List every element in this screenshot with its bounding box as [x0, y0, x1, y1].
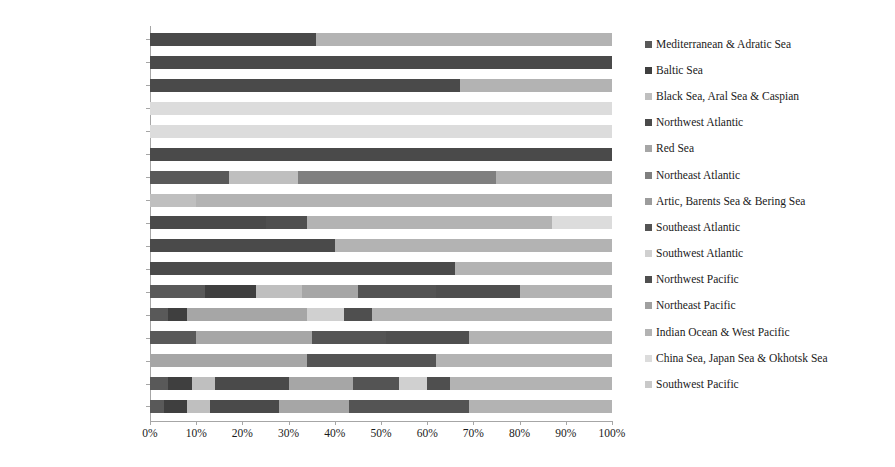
bar-segment[interactable]	[150, 102, 612, 115]
bar-segment[interactable]	[150, 79, 460, 92]
x-axis-tick	[520, 421, 521, 425]
stacked-bar[interactable]	[150, 331, 612, 344]
legend-item[interactable]: China Sea, Japan Sea & Okhotsk Sea	[645, 345, 895, 371]
bar-segment[interactable]	[436, 285, 519, 298]
bar-segment[interactable]	[312, 331, 386, 344]
bar-segment[interactable]	[552, 216, 612, 229]
bar-segment[interactable]	[386, 331, 469, 344]
bar-segment[interactable]	[307, 354, 436, 367]
bar-segment[interactable]	[344, 308, 372, 321]
bar-segment[interactable]	[150, 400, 164, 413]
bar-segment[interactable]	[150, 125, 612, 138]
bar-segment[interactable]	[349, 400, 469, 413]
bar-segment[interactable]	[229, 171, 298, 184]
bar-segment[interactable]	[150, 148, 612, 161]
legend-label: Northwest Atlantic	[656, 116, 743, 129]
stacked-bar[interactable]	[150, 194, 612, 207]
legend-item[interactable]: Northeast Pacific	[645, 293, 895, 319]
stacked-bar[interactable]	[150, 400, 612, 413]
legend-item[interactable]: Baltic Sea	[645, 57, 895, 83]
bar-segment[interactable]	[279, 400, 348, 413]
bar-segment[interactable]	[469, 331, 612, 344]
legend-item[interactable]: Southeast Atlantic	[645, 214, 895, 240]
bar-segment[interactable]	[164, 400, 187, 413]
bar-segment[interactable]	[150, 354, 307, 367]
bar-segment[interactable]	[150, 33, 316, 46]
stacked-bar[interactable]	[150, 262, 612, 275]
x-axis-tick	[566, 421, 567, 425]
bar-segment[interactable]	[150, 331, 196, 344]
bar-segment[interactable]	[150, 239, 335, 252]
bar-segment[interactable]	[150, 56, 612, 69]
bar-segment[interactable]	[150, 216, 266, 229]
bar-segment[interactable]	[196, 331, 312, 344]
bar-segment[interactable]	[455, 262, 612, 275]
legend-item[interactable]: Indian Ocean & West Pacific	[645, 319, 895, 345]
bar-segment[interactable]	[316, 33, 612, 46]
bar-segment[interactable]	[520, 285, 612, 298]
bar-segment[interactable]	[150, 262, 455, 275]
bar-segment[interactable]	[335, 239, 612, 252]
legend-swatch-icon	[645, 41, 652, 48]
stacked-bar[interactable]	[150, 125, 612, 138]
stacked-bar[interactable]	[150, 285, 612, 298]
bar-segment[interactable]	[427, 377, 450, 390]
bar-segment[interactable]	[436, 354, 612, 367]
bars-container: PleuronectiformesGadiformesSyngnathiform…	[150, 28, 612, 418]
legend-item[interactable]: Red Sea	[645, 136, 895, 162]
legend-item[interactable]: Northwest Atlantic	[645, 110, 895, 136]
legend-swatch-icon	[645, 329, 652, 336]
bar-segment[interactable]	[307, 216, 552, 229]
bar-segment[interactable]	[372, 308, 612, 321]
stacked-bar[interactable]	[150, 171, 612, 184]
bar-segment[interactable]	[307, 308, 344, 321]
legend-swatch-icon	[645, 302, 652, 309]
stacked-bar[interactable]	[150, 56, 612, 69]
bar-segment[interactable]	[469, 400, 612, 413]
stacked-bar[interactable]	[150, 377, 612, 390]
legend-label: Red Sea	[656, 142, 694, 155]
bar-segment[interactable]	[196, 194, 612, 207]
bar-segment[interactable]	[150, 308, 168, 321]
bar-segment[interactable]	[256, 285, 302, 298]
legend-item[interactable]: Northeast Atlantic	[645, 162, 895, 188]
x-axis-label: 30%	[278, 426, 299, 440]
bar-segment[interactable]	[150, 194, 196, 207]
bar-segment[interactable]	[496, 171, 612, 184]
legend-item[interactable]: Black Sea, Aral Sea & Caspian	[645, 83, 895, 109]
bar-segment[interactable]	[192, 377, 215, 390]
stacked-bar[interactable]	[150, 216, 612, 229]
stacked-bar[interactable]	[150, 102, 612, 115]
bar-segment[interactable]	[302, 285, 357, 298]
legend-item[interactable]: Northwest Pacific	[645, 267, 895, 293]
bar-segment[interactable]	[450, 377, 612, 390]
legend-item[interactable]: Southwest Atlantic	[645, 241, 895, 267]
bar-segment[interactable]	[150, 285, 205, 298]
legend-item[interactable]: Artic, Barents Sea & Bering Sea	[645, 188, 895, 214]
stacked-bar[interactable]	[150, 239, 612, 252]
legend-swatch-icon	[645, 119, 652, 126]
bar-segment[interactable]	[460, 79, 612, 92]
stacked-bar[interactable]	[150, 148, 612, 161]
bar-segment[interactable]	[399, 377, 427, 390]
stacked-bar[interactable]	[150, 33, 612, 46]
bar-segment[interactable]	[215, 377, 289, 390]
stacked-bar[interactable]	[150, 79, 612, 92]
bar-segment[interactable]	[187, 308, 307, 321]
bar-segment[interactable]	[168, 308, 186, 321]
stacked-bar[interactable]	[150, 354, 612, 367]
bar-segment[interactable]	[298, 171, 497, 184]
bar-segment[interactable]	[266, 216, 308, 229]
bar-segment[interactable]	[210, 400, 279, 413]
bar-segment[interactable]	[187, 400, 210, 413]
bar-segment[interactable]	[358, 285, 437, 298]
bar-segment[interactable]	[353, 377, 399, 390]
bar-segment[interactable]	[150, 171, 229, 184]
bar-segment[interactable]	[289, 377, 354, 390]
legend-item[interactable]: Southwest Pacific	[645, 371, 895, 397]
bar-segment[interactable]	[205, 285, 256, 298]
stacked-bar[interactable]	[150, 308, 612, 321]
bar-segment[interactable]	[150, 377, 168, 390]
bar-segment[interactable]	[168, 377, 191, 390]
legend-item[interactable]: Mediterranean & Adratic Sea	[645, 31, 895, 57]
